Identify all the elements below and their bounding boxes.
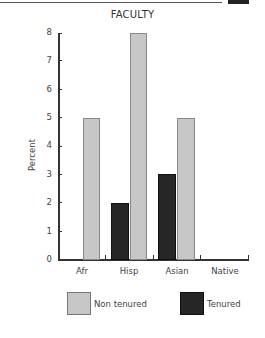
bar-hisp-non-tenured: [130, 33, 147, 260]
x-tick: [200, 255, 201, 260]
y-tick-label: 7: [40, 55, 52, 65]
bar-asian-tenured: [158, 174, 176, 260]
x-category-label: Afr: [62, 266, 102, 276]
y-tick: [58, 89, 62, 90]
y-tick-label: 3: [40, 169, 52, 179]
y-tick: [58, 117, 62, 118]
top-marker: [228, 0, 249, 4]
legend-label-non-tenured: Non tenured: [94, 299, 147, 309]
y-tick: [58, 174, 62, 175]
y-tick: [58, 146, 62, 147]
x-tick: [248, 255, 249, 260]
legend-swatch-non-tenured: [67, 292, 91, 315]
y-tick-label: 1: [40, 226, 52, 236]
legend-swatch-tenured: [180, 292, 204, 315]
y-tick-label: 2: [40, 197, 52, 207]
y-tick-label: 4: [40, 140, 52, 150]
x-category-label: Hisp: [109, 266, 149, 276]
bar-asian-non-tenured: [177, 118, 195, 260]
chart-title: FACULTY: [0, 9, 265, 20]
x-tick: [105, 255, 106, 260]
y-tick: [58, 33, 62, 34]
y-tick: [58, 231, 62, 232]
legend-label-tenured: Tenured: [207, 299, 241, 309]
bar-hisp-tenured: [111, 203, 129, 260]
y-tick-label: 8: [40, 27, 52, 37]
y-tick-label: 6: [40, 84, 52, 94]
x-tick: [153, 255, 154, 260]
bar-afr-non-tenured: [83, 118, 100, 260]
x-category-label: Asian: [157, 266, 197, 276]
top-rule: [0, 2, 222, 3]
y-tick: [58, 60, 62, 61]
y-tick-label: 0: [40, 254, 52, 264]
y-tick-label: 5: [40, 112, 52, 122]
y-axis-title: Percent: [27, 130, 37, 180]
y-tick: [58, 202, 62, 203]
x-category-label: Native: [205, 266, 245, 276]
